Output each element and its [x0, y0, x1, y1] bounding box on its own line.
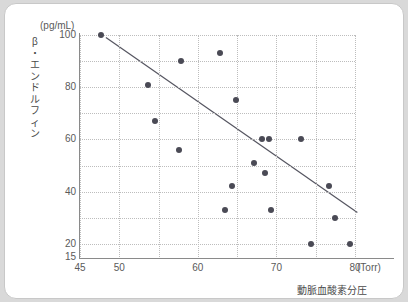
data-point	[259, 136, 265, 142]
data-point	[233, 97, 239, 103]
plot-area	[80, 35, 355, 257]
y-axis-title: β・エンドルフィン	[27, 36, 43, 140]
data-point	[262, 170, 268, 176]
gridline-vertical	[198, 35, 199, 257]
data-point	[217, 50, 223, 56]
gridline-vertical	[316, 35, 317, 257]
data-point	[268, 207, 274, 213]
data-point	[178, 58, 184, 64]
data-point	[332, 215, 338, 221]
y-tick-label: 20	[42, 238, 76, 249]
gridline-horizontal	[80, 113, 355, 114]
data-point	[222, 207, 228, 213]
data-point	[152, 118, 158, 124]
y-axis-title-char: エ	[27, 59, 43, 71]
gridline-horizontal	[80, 139, 355, 140]
y-axis-title-char: ド	[27, 82, 43, 94]
x-tick-label: 60	[181, 262, 215, 273]
figure-root: (pg/mL) β・エンドルフィン 1520406080100 45506070…	[0, 0, 408, 302]
gridline-horizontal	[80, 35, 355, 36]
y-axis-title-char: β	[27, 36, 43, 48]
gridline-horizontal	[80, 61, 355, 62]
regression-line	[80, 35, 355, 257]
chart-card: (pg/mL) β・エンドルフィン 1520406080100 45506070…	[4, 3, 404, 299]
gridline-vertical	[159, 35, 160, 257]
data-point	[176, 147, 182, 153]
data-point	[145, 82, 151, 88]
y-tick-label: 40	[42, 186, 76, 197]
data-point	[229, 183, 235, 189]
data-point	[347, 241, 353, 247]
gridline-vertical	[237, 35, 238, 257]
data-point	[251, 160, 257, 166]
gridline-vertical	[355, 35, 356, 257]
gridline-horizontal	[80, 166, 355, 167]
x-tick-label: 50	[102, 262, 136, 273]
x-tick-label: 70	[259, 262, 293, 273]
gridline-vertical	[276, 35, 277, 257]
gridline-horizontal	[80, 218, 355, 219]
y-tick-label: 15	[42, 251, 76, 262]
y-axis-title-char: フ	[27, 105, 43, 117]
data-point	[98, 32, 104, 38]
data-point	[266, 136, 272, 142]
y-axis-title-char: ン	[27, 128, 43, 140]
gridline-horizontal	[80, 192, 355, 193]
x-axis-unit-label: (Torr)	[357, 262, 381, 273]
y-axis-title-char: ン	[27, 71, 43, 83]
x-axis-line	[79, 258, 394, 259]
y-axis-title-char: ル	[27, 94, 43, 106]
gridline-vertical	[80, 35, 81, 257]
y-tick-label: 60	[42, 133, 76, 144]
y-axis-title-char: ・	[27, 48, 43, 60]
x-axis-title: 動脈血酸素分圧	[297, 282, 367, 297]
gridline-vertical	[119, 35, 120, 257]
gridline-horizontal	[80, 87, 355, 88]
data-point	[326, 183, 332, 189]
y-axis-title-char: ィ	[27, 117, 43, 129]
y-tick-label: 80	[42, 81, 76, 92]
y-tick-label: 100	[42, 29, 76, 40]
data-point	[298, 136, 304, 142]
data-point	[308, 241, 314, 247]
x-tick-label: 45	[63, 262, 97, 273]
